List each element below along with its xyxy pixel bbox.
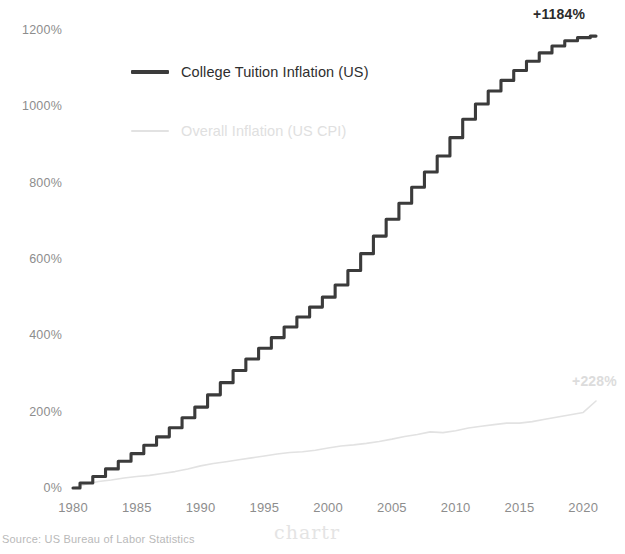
tuition-line <box>73 36 596 488</box>
x-tick-label: 2010 <box>441 500 471 515</box>
y-tick-label: 800% <box>0 176 62 190</box>
y-tick-label: 0% <box>0 481 62 495</box>
legend-item-overall-inflation: Overall Inflation (US CPI) <box>131 123 346 139</box>
x-tick-label: 1980 <box>58 500 88 515</box>
y-tick-label: 600% <box>0 252 62 266</box>
x-tick-label: 1995 <box>249 500 279 515</box>
chartr-watermark: chartr <box>274 521 340 543</box>
tuition-end-value-label: +1184% <box>533 6 585 22</box>
plot-area <box>0 0 625 554</box>
x-tick-label: 2005 <box>377 500 407 515</box>
legend-swatch-overall-inflation <box>131 130 169 132</box>
chart-container: 0%200%400%600%800%1000%1200% 19801985199… <box>0 0 625 554</box>
y-tick-label: 200% <box>0 405 62 419</box>
cpi-end-value-label: +228% <box>572 373 617 389</box>
x-tick-label: 1985 <box>122 500 152 515</box>
source-note: Source: US Bureau of Labor Statistics <box>2 533 195 545</box>
x-tick-label: 2000 <box>313 500 343 515</box>
x-tick-label: 2015 <box>505 500 535 515</box>
legend-label-overall-inflation: Overall Inflation (US CPI) <box>181 123 346 139</box>
y-tick-label: 400% <box>0 328 62 342</box>
y-tick-label: 1200% <box>0 23 62 37</box>
legend-item-college-tuition: College Tuition Inflation (US) <box>131 64 369 80</box>
x-tick-label: 2020 <box>568 500 598 515</box>
legend-swatch-college-tuition <box>131 70 169 74</box>
y-tick-label: 1000% <box>0 99 62 113</box>
x-tick-label: 1990 <box>186 500 216 515</box>
legend-label-college-tuition: College Tuition Inflation (US) <box>181 64 369 80</box>
